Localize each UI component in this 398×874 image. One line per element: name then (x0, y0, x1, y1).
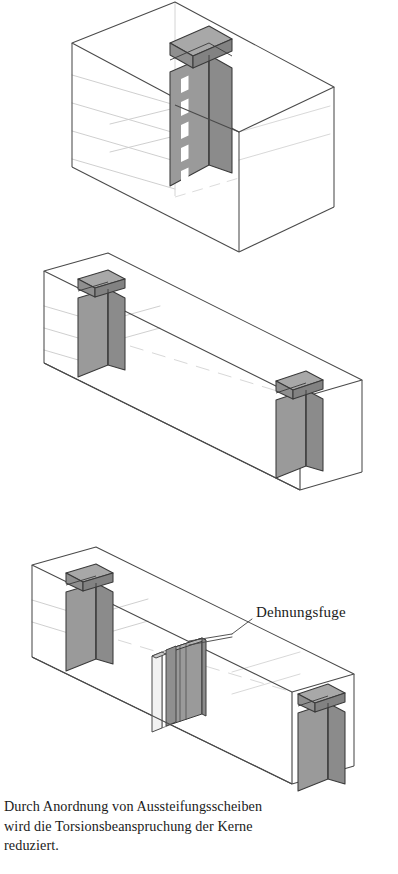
interior-floor-lines-1 (72, 75, 175, 189)
core-front-face (298, 703, 328, 791)
shear-walls-middle (152, 638, 206, 732)
core-single-1 (170, 26, 232, 186)
core-left-2 (78, 270, 125, 377)
diagram-elongated-building-with-shear-walls (0, 528, 398, 828)
shear-wall-second-face (166, 646, 176, 726)
core-front-face (170, 55, 209, 186)
callout-label-dehnungsfuge: Dehnungsfuge (256, 604, 346, 621)
core-front-face (78, 289, 108, 377)
core-side-face (306, 390, 323, 471)
core-right-3 (298, 684, 345, 791)
figure-caption: Durch Anordnung von Aussteifungsscheiben… (4, 797, 334, 856)
diagram-single-core-compact-building (0, 0, 398, 262)
diagram-elongated-building-two-cores (0, 258, 398, 530)
volume-front-overlay-2 (44, 363, 300, 490)
interior-floor-lines-3-right (232, 652, 300, 694)
figure-sheet: Dehnungsfuge Durch Anordnung von Ausstei… (0, 0, 398, 874)
core-side-face (108, 289, 125, 370)
interior-floor-lines-1-right (239, 106, 330, 160)
volume-hidden-dashed-2 (130, 346, 300, 398)
core-right-2 (276, 371, 323, 478)
core-side-face (96, 583, 113, 664)
shear-wall-rear-face (172, 638, 202, 724)
core-front-face (276, 390, 306, 478)
core-left-3 (66, 564, 113, 671)
core-front-face (66, 583, 96, 671)
core-side-face (209, 55, 232, 173)
shear-wall-rear-edge (202, 638, 206, 716)
core-side-face (328, 703, 345, 784)
